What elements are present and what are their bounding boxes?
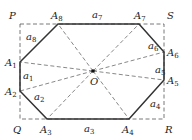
spoke-line xyxy=(47,71,93,119)
center-label-o: O xyxy=(90,76,98,87)
corner-label-p: P xyxy=(8,10,16,21)
vertex-label-a1: A1 xyxy=(4,57,17,70)
spoke-line xyxy=(20,62,93,71)
center-point xyxy=(91,69,95,73)
vertex-label-a2: A2 xyxy=(4,86,17,99)
vertex-label-a4: A4 xyxy=(121,124,134,137)
spoke-line xyxy=(93,24,139,71)
corner-label-r: R xyxy=(164,124,173,135)
side-label-a3: a3 xyxy=(84,123,94,136)
vertex-label-a5: A5 xyxy=(166,75,179,88)
vertex-label-a3: A3 xyxy=(39,124,52,137)
side-label-a4: a4 xyxy=(150,98,161,111)
spoke-line xyxy=(93,71,129,119)
octagon-diagram: PSRQA1A2A3A4A5A6A7A8a1a2a3a4a5a6a7a8O xyxy=(0,0,192,140)
side-label-a2: a2 xyxy=(34,91,44,104)
labels: PSRQA1A2A3A4A5A6A7A8a1a2a3a4a5a6a7a8O xyxy=(4,9,179,137)
side-label-a1: a1 xyxy=(23,70,33,83)
spoke-line xyxy=(58,24,93,71)
vertex-label-a7: A7 xyxy=(133,10,146,23)
side-label-a8: a8 xyxy=(26,31,36,44)
spoke-line xyxy=(93,71,164,80)
corner-label-s: S xyxy=(167,10,174,21)
side-label-a7: a7 xyxy=(92,9,102,22)
side-label-a6: a6 xyxy=(148,40,159,53)
corner-label-q: Q xyxy=(13,124,21,135)
center-dot xyxy=(91,69,95,73)
vertex-label-a6: A6 xyxy=(166,47,179,60)
vertex-label-a8: A8 xyxy=(50,10,63,23)
spoke-line xyxy=(93,52,164,71)
